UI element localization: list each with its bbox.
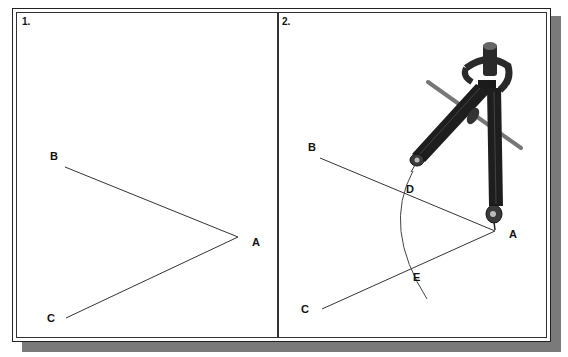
panel-2-point-e: E xyxy=(413,271,420,283)
panel-1-point-b: B xyxy=(50,150,58,162)
panel-2-point-a: A xyxy=(509,228,517,240)
panel-2-point-b: B xyxy=(308,141,316,153)
panel-2-angle: B A C D E xyxy=(301,141,517,315)
panel-1-angle: B A C xyxy=(47,150,260,324)
compass-icon xyxy=(410,42,521,230)
geometry-diagram: B A C B A C D E xyxy=(0,0,568,357)
panel-1-point-c: C xyxy=(47,312,55,324)
panel-2-point-d: D xyxy=(406,183,414,195)
panel-2-point-c: C xyxy=(301,303,309,315)
panel-1-point-a: A xyxy=(252,236,260,248)
